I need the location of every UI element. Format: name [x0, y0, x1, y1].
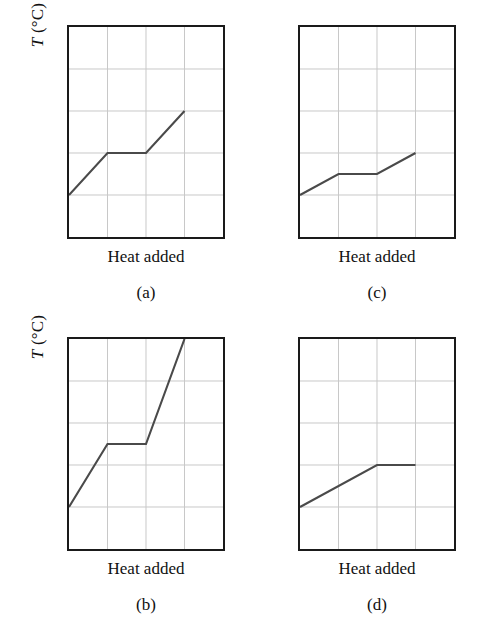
panel-tag-b: (b): [67, 595, 225, 615]
plot-box-d: [298, 337, 456, 551]
y-axis-label: T (°C): [28, 0, 48, 85]
panel-tag-a: (a): [67, 283, 225, 303]
x-axis-label: Heat added: [67, 247, 225, 267]
y-axis-units: (°C): [28, 3, 47, 33]
gridlines-a: [69, 27, 223, 237]
y-axis-units: (°C): [28, 315, 47, 345]
gridlines-d: [300, 339, 454, 549]
plot-svg-a: [69, 27, 223, 237]
plot-svg-d: [300, 339, 454, 549]
x-axis-label: Heat added: [67, 559, 225, 579]
plot-box-c: [298, 25, 456, 239]
gridlines-c: [300, 27, 454, 237]
panel-tag-d: (d): [298, 595, 456, 615]
y-axis-label: T (°C): [28, 277, 48, 397]
y-axis-symbol: T: [28, 350, 47, 360]
curve-d: [300, 465, 416, 507]
x-axis-label: Heat added: [298, 247, 456, 267]
plot-svg-c: [300, 27, 454, 237]
plot-svg-b: [69, 339, 223, 549]
x-axis-label: Heat added: [298, 559, 456, 579]
curve-c: [300, 153, 416, 195]
panel-tag-c: (c): [298, 283, 456, 303]
heating-curve-figure: T (°C) Heat added (a) T (°C): [0, 0, 499, 640]
y-axis-symbol: T: [28, 38, 47, 48]
plot-box-a: [67, 25, 225, 239]
plot-box-b: [67, 337, 225, 551]
